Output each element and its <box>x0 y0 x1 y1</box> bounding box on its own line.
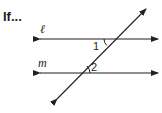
transversal-line <box>57 9 146 99</box>
angle-2-arc <box>87 66 90 73</box>
line-m-label: m <box>38 56 47 70</box>
angle-1-label: 1 <box>93 40 99 52</box>
angle-2-label: 2 <box>91 61 97 73</box>
parallel-lines-diagram: ℓ m 1 2 <box>0 0 162 113</box>
diagram-root: If... ℓ m 1 2 <box>0 0 162 113</box>
angle-1-arc <box>104 39 107 45</box>
line-l-label: ℓ <box>40 22 45 36</box>
